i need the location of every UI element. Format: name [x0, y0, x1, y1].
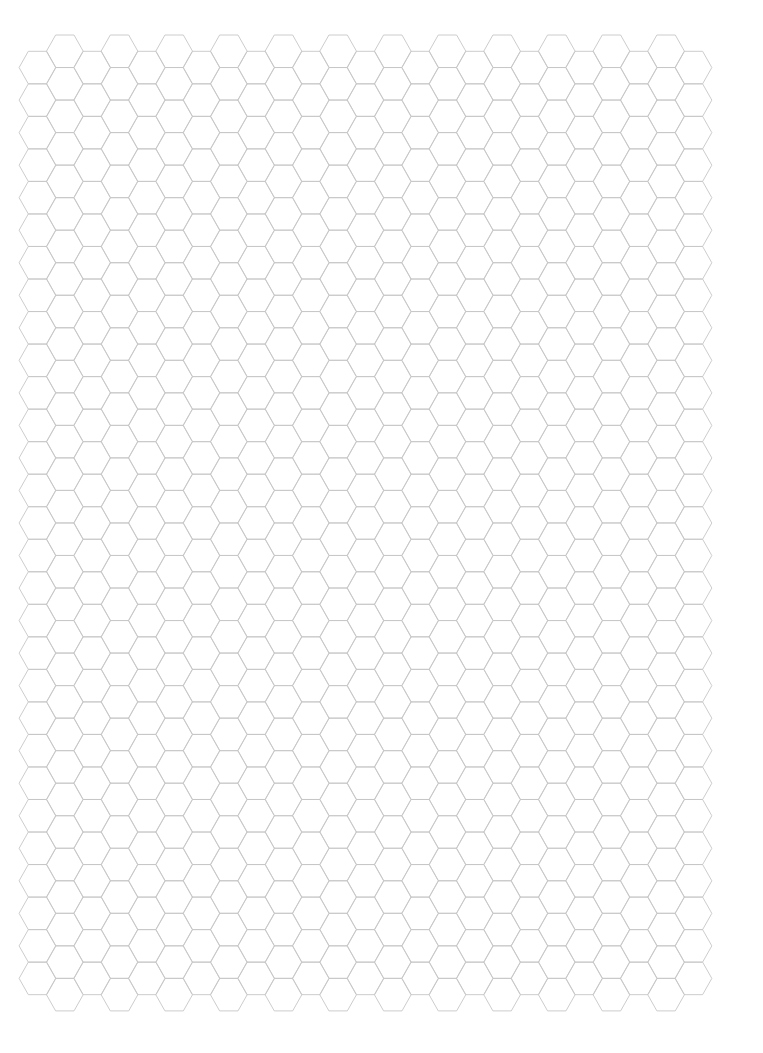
hexagon-grid: [0, 0, 763, 1053]
hex-grid-paper-page: [0, 0, 763, 1053]
hexagon-grid-lines: [19, 35, 712, 1011]
